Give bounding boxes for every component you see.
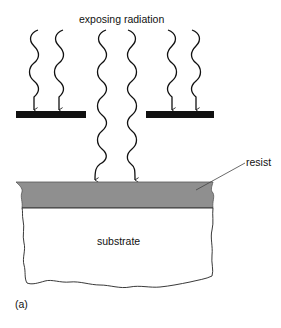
radiation-wave-icon	[30, 30, 64, 110]
substrate-label: substrate	[97, 235, 140, 247]
resist-leader-line	[196, 163, 245, 190]
exposing-radiation-label: exposing radiation	[79, 13, 164, 25]
panel-label: (a)	[15, 298, 28, 310]
substrate	[22, 208, 213, 288]
radiation-wave-icon	[168, 30, 201, 110]
radiation-wave-icon	[95, 30, 137, 180]
right-mask	[146, 111, 214, 118]
left-mask	[16, 111, 86, 118]
resist-layer	[16, 182, 214, 208]
resist-label: resist	[246, 156, 271, 168]
lithography-diagram: exposing radiation resist substrate (a)	[0, 0, 281, 328]
